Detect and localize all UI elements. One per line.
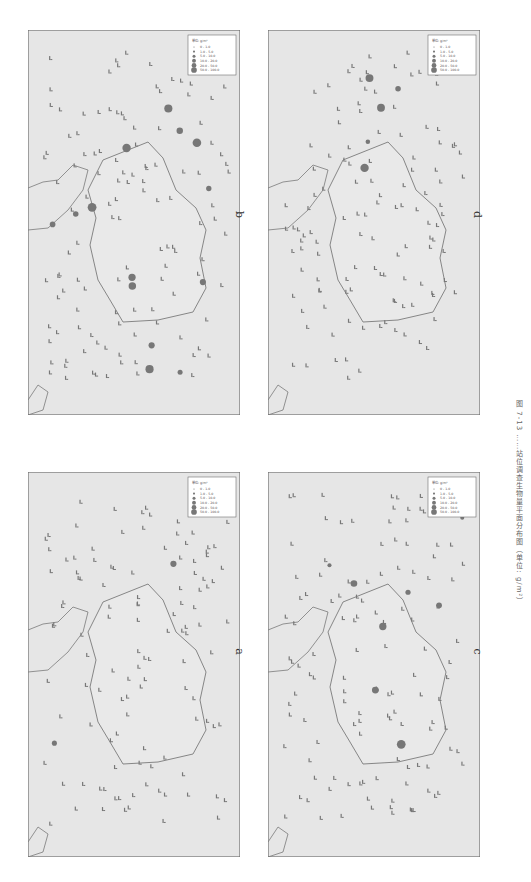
station-label-mark	[149, 513, 150, 517]
legend: 单位: g/m²0 - 1.01.0 - 5.05.0 - 10.010.0 -…	[428, 35, 476, 75]
station-label-mark	[138, 604, 140, 605]
station-label-mark	[180, 79, 181, 83]
station-label-mark	[333, 336, 335, 337]
legend-title: 单位: g/m²	[432, 480, 448, 485]
station-label-mark	[429, 579, 431, 580]
station-label-mark	[206, 550, 207, 554]
station-label-mark	[187, 92, 188, 96]
station-label-mark	[421, 510, 423, 511]
station-label-mark	[137, 601, 138, 605]
station-label-mark	[391, 808, 393, 809]
station-label-mark	[308, 801, 310, 802]
biomass-marker	[170, 561, 176, 567]
station-label-mark	[394, 537, 395, 541]
station-label-mark	[365, 216, 367, 217]
station-label-mark	[222, 286, 224, 287]
station-label-mark	[220, 725, 222, 726]
station-label-mark	[424, 512, 426, 513]
station-label-mark	[402, 725, 404, 726]
station-label-mark	[126, 54, 128, 55]
station-label-mark	[427, 349, 429, 350]
station-label-mark	[381, 575, 383, 576]
station-label-mark	[315, 196, 317, 197]
station-label-mark	[429, 727, 430, 731]
station-label-mark	[85, 155, 87, 156]
station-label-mark	[359, 232, 360, 236]
station-label-mark	[436, 171, 438, 172]
station-label-mark	[429, 236, 430, 240]
station-label-mark	[395, 331, 397, 332]
station-label-mark	[210, 141, 211, 145]
station-label-mark	[201, 124, 203, 125]
station-label-mark	[436, 543, 437, 547]
station-label-mark	[215, 547, 217, 548]
station-label-mark	[122, 170, 123, 174]
station-label-mark	[432, 294, 434, 295]
station-label-mark	[405, 781, 406, 785]
station-label-mark	[431, 239, 433, 240]
station-label-mark	[455, 293, 457, 294]
station-label-mark	[393, 814, 395, 815]
station-label-mark	[294, 496, 296, 497]
station-label-mark	[118, 66, 120, 67]
station-label-mark	[95, 154, 97, 155]
station-label-mark	[430, 730, 432, 731]
station-label-mark	[109, 107, 110, 111]
station-label-mark	[158, 126, 159, 130]
station-label-mark	[183, 172, 185, 173]
station-label-mark	[127, 180, 128, 184]
station-label-mark	[449, 747, 450, 751]
station-label-mark	[332, 602, 334, 603]
station-label-mark	[137, 595, 138, 599]
station-label-mark	[336, 361, 338, 362]
legend-symbol	[432, 63, 437, 68]
station-label-mark	[66, 362, 68, 363]
station-label-mark	[50, 103, 51, 107]
station-label-mark	[65, 558, 66, 562]
station-label-mark	[103, 787, 104, 791]
station-label-mark	[65, 376, 66, 380]
station-label-mark	[48, 547, 49, 551]
station-label-mark	[441, 212, 442, 216]
station-label-mark	[116, 799, 118, 800]
station-label-mark	[113, 671, 115, 672]
station-label-mark	[417, 210, 419, 211]
station-label-mark	[60, 717, 62, 718]
station-label-mark	[116, 110, 117, 114]
station-label-mark	[354, 725, 356, 726]
station-label-mark	[318, 280, 320, 281]
station-label-mark	[379, 133, 381, 134]
station-label-mark	[449, 660, 450, 664]
station-label-mark	[433, 554, 434, 558]
biomass-marker	[122, 144, 130, 152]
station-label-mark	[391, 691, 392, 695]
station-label-mark	[207, 553, 209, 554]
station-label-mark	[142, 179, 143, 183]
station-label-mark	[177, 535, 179, 536]
station-label-mark	[307, 366, 309, 367]
station-label-mark	[145, 164, 146, 168]
station-label-mark	[181, 604, 183, 605]
station-label-mark	[367, 797, 368, 801]
station-label-mark	[80, 633, 81, 637]
station-label-mark	[313, 167, 314, 171]
legend-class-label: 50.0 - 100.0	[200, 68, 219, 72]
station-label-mark	[117, 277, 118, 281]
legend-class-label: 10.0 - 20.0	[200, 501, 217, 505]
station-label-mark	[431, 291, 432, 295]
station-label-mark	[133, 308, 134, 312]
station-label-mark	[194, 699, 196, 700]
station-label-mark	[370, 57, 372, 58]
station-label-mark	[133, 796, 135, 797]
biomass-marker	[405, 590, 410, 595]
station-label-mark	[450, 543, 451, 547]
station-label-mark	[201, 257, 202, 261]
station-label-mark	[350, 287, 351, 291]
station-label-mark	[193, 353, 194, 357]
station-label-mark	[302, 312, 304, 313]
station-label-mark	[375, 611, 376, 615]
station-label-mark	[326, 519, 328, 520]
station-label-mark	[192, 531, 193, 535]
station-label-mark	[207, 556, 209, 557]
station-label-mark	[338, 594, 339, 598]
